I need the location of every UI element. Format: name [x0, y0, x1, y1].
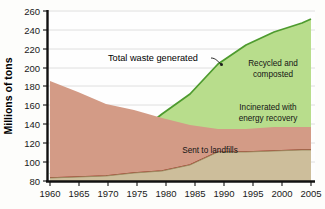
- svg-text:Recycled and: Recycled and: [248, 59, 298, 68]
- svg-text:energy recovery: energy recovery: [239, 114, 299, 123]
- x-tick-label-1985: 1985: [184, 188, 205, 199]
- y-tick-label-240: 240: [24, 25, 40, 36]
- x-tick-label-1960: 1960: [39, 188, 60, 199]
- x-tick-label-1975: 1975: [126, 188, 147, 199]
- y-tick-label-180: 180: [24, 81, 40, 92]
- total-waste-callout-dot: [220, 63, 223, 66]
- x-tick-label-1965: 1965: [68, 188, 89, 199]
- y-tick-label-80: 80: [29, 176, 40, 187]
- y-tick-label-120: 120: [24, 138, 40, 149]
- y-tick-label-160: 160: [24, 100, 40, 111]
- x-tick-label-1980: 1980: [155, 188, 176, 199]
- y-tick-label-140: 140: [24, 119, 40, 130]
- y-tick-label-200: 200: [24, 63, 40, 74]
- waste-generation-area-chart: 260 240 220 200 180 160 140 120 100 80 1…: [0, 0, 325, 209]
- x-tick-label-2005: 2005: [300, 188, 321, 199]
- y-tick-label-100: 100: [24, 157, 40, 168]
- x-tick-label-1990: 1990: [213, 188, 234, 199]
- svg-text:composted: composted: [253, 70, 293, 79]
- svg-text:Incinerated with: Incinerated with: [239, 103, 297, 112]
- svg-text:Sent to landfills: Sent to landfills: [182, 146, 238, 155]
- y-tick-label-260: 260: [24, 6, 40, 17]
- chart-canvas: 260 240 220 200 180 160 140 120 100 80 1…: [0, 0, 325, 209]
- landfill-band-label: Sent to landfills: [182, 146, 238, 155]
- x-tick-label-1995: 1995: [242, 188, 263, 199]
- y-tick-label-220: 220: [24, 44, 40, 55]
- x-tick-label-1970: 1970: [97, 188, 118, 199]
- x-tick-label-2000: 2000: [271, 188, 292, 199]
- y-axis-title: Millions of tons: [2, 57, 14, 134]
- total-waste-callout-label: Total waste generated: [108, 53, 198, 63]
